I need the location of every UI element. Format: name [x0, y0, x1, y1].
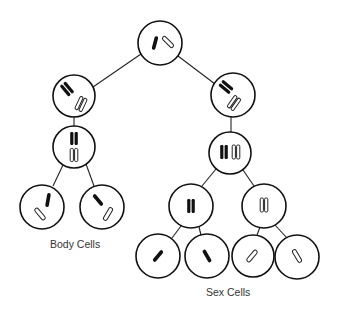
edge-3a-sex1 — [172, 226, 181, 238]
sex-cells-label: Sex Cells — [206, 286, 250, 298]
meiosis-cell-2 — [209, 132, 251, 174]
sex-cell-1 — [136, 234, 180, 278]
edge-meiosis2-3a — [202, 169, 216, 186]
edge-3a-sex2 — [199, 227, 201, 235]
edge-meiosis2-3b — [243, 170, 254, 186]
edge-parent-mitosis — [93, 54, 141, 87]
mitosis-cell-1 — [53, 75, 95, 117]
cell-division-diagram — [0, 0, 338, 315]
meiosis-cell-1 — [211, 73, 255, 117]
sex-cell-2 — [185, 234, 229, 278]
edge-mitosis2-body2 — [86, 164, 94, 186]
mitosis-cell-2 — [53, 126, 95, 168]
edge-3b-sex4 — [275, 225, 287, 238]
edge-parent-meiosis — [178, 56, 215, 84]
body-cell-1 — [20, 185, 64, 229]
sex-cell-3 — [232, 235, 274, 277]
body-cells-label: Body Cells — [50, 238, 100, 250]
meiosis-cell-3b — [242, 184, 286, 228]
parent-cell — [138, 21, 182, 65]
sex-cell-4 — [275, 235, 319, 279]
body-cell-2 — [80, 185, 124, 229]
edge-mitosis2-body1 — [53, 165, 63, 186]
meiosis-cell-3a — [169, 184, 213, 228]
